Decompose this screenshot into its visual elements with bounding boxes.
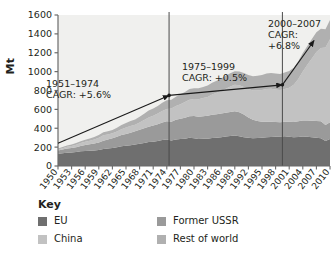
- stacked-area-chart: 02004006008001000120014001600 1950195319…: [0, 0, 335, 196]
- svg-text:+6.8%: +6.8%: [268, 40, 300, 51]
- svg-text:1951–1974: 1951–1974: [46, 78, 99, 89]
- legend-swatch-eu: [38, 217, 47, 226]
- svg-text:1400: 1400: [28, 28, 52, 39]
- legend-title: Key: [38, 198, 61, 211]
- legend-label-china: China: [54, 234, 83, 244]
- svg-text:1000: 1000: [28, 66, 52, 77]
- chart-legend: Key EU China Former USSR Rest of world: [0, 196, 335, 254]
- legend-item-rest-of-world: Rest of world: [157, 234, 238, 244]
- svg-text:600: 600: [34, 104, 52, 115]
- svg-text:400: 400: [34, 123, 52, 134]
- svg-text:2000–2007: 2000–2007: [268, 18, 321, 29]
- svg-text:CAGR: +5.6%: CAGR: +5.6%: [46, 89, 111, 100]
- svg-text:1975–1999: 1975–1999: [182, 61, 235, 72]
- svg-text:CAGR: +0.5%: CAGR: +0.5%: [182, 72, 247, 83]
- svg-text:1600: 1600: [28, 9, 52, 20]
- legend-item-eu: EU: [38, 216, 68, 226]
- chart-plot-region: Mt 02004006008001000120014001600 1950195…: [0, 0, 335, 196]
- svg-text:200: 200: [34, 142, 52, 153]
- legend-swatch-former-ussr: [157, 217, 166, 226]
- legend-item-former-ussr: Former USSR: [157, 216, 239, 226]
- legend-item-china: China: [38, 234, 83, 244]
- legend-label-former-ussr: Former USSR: [173, 216, 239, 226]
- legend-swatch-china: [38, 235, 47, 244]
- chart-figure: Mt 02004006008001000120014001600 1950195…: [0, 0, 335, 254]
- legend-label-rest-of-world: Rest of world: [173, 234, 238, 244]
- x-axis-ticks: 1950195319561959196219651968197119741977…: [38, 166, 332, 191]
- svg-text:1200: 1200: [28, 47, 52, 58]
- legend-swatch-rest-of-world: [157, 235, 166, 244]
- legend-label-eu: EU: [54, 216, 68, 226]
- svg-text:CAGR:: CAGR:: [268, 29, 298, 40]
